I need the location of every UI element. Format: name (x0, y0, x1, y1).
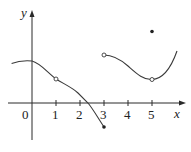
closed-point-x3 (102, 125, 106, 129)
curve-piece-2 (104, 51, 177, 80)
x-axis-arrow-icon (179, 101, 186, 106)
x-axis-label: x (173, 106, 180, 121)
tick-label-3: 3 (100, 107, 107, 122)
open-point-x5 (150, 78, 154, 82)
open-point-x3 (102, 53, 106, 57)
y-axis-arrow-icon (30, 10, 35, 17)
function-graph: 0 1 2 3 4 5 x y (0, 0, 191, 152)
open-point-x1 (54, 77, 58, 81)
closed-point-x5 (150, 30, 154, 34)
tick-label-5: 5 (148, 107, 155, 122)
tick-label-0: 0 (22, 107, 29, 122)
y-axis-label: y (19, 5, 27, 20)
tick-label-1: 1 (52, 107, 59, 122)
tick-label-2: 2 (76, 107, 83, 122)
tick-label-4: 4 (124, 107, 131, 122)
